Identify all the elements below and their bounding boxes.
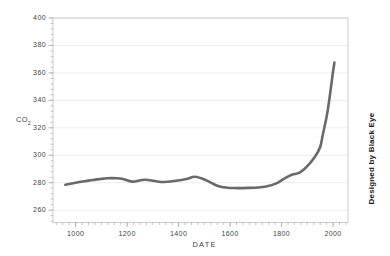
x-tick-label: 2000 <box>316 230 350 237</box>
x-tick-label: 1200 <box>110 230 144 237</box>
y-axis-title: CO2 <box>16 115 31 126</box>
y-tick-label: 340 <box>20 96 46 103</box>
y-axis-title-main: CO <box>16 115 28 124</box>
y-tick-label: 380 <box>20 41 46 48</box>
x-tick-label: 1000 <box>59 230 93 237</box>
x-tick-label: 1800 <box>265 230 299 237</box>
y-tick-label: 400 <box>20 14 46 21</box>
co2-line-chart: 260280300320340360380400 100012001400160… <box>0 0 390 256</box>
plot-area <box>0 0 390 256</box>
x-tick-label: 1400 <box>162 230 196 237</box>
y-tick-label: 280 <box>20 179 46 186</box>
co2-series-line <box>65 63 334 189</box>
x-axis-title: DATE <box>175 240 235 249</box>
x-tick-label: 1600 <box>213 230 247 237</box>
y-tick-label: 360 <box>20 69 46 76</box>
plot-frame <box>53 18 348 223</box>
y-tick-label: 300 <box>20 151 46 158</box>
designer-credit: Designed by Black Eye <box>367 115 376 205</box>
y-axis-title-sub: 2 <box>28 120 31 126</box>
y-tick-label: 260 <box>20 206 46 213</box>
